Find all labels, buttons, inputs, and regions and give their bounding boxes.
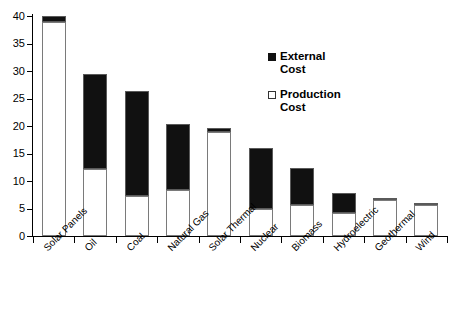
bar-solar-panels bbox=[42, 16, 66, 236]
bar-segment-external-cost bbox=[290, 168, 314, 205]
y-axis-tick-label: 25 bbox=[1, 93, 25, 104]
y-axis-tick-label: 20 bbox=[1, 121, 25, 132]
x-axis-tick bbox=[447, 237, 448, 243]
x-axis-tick bbox=[281, 237, 282, 243]
chart-legend: ExternalCost ProductionCost bbox=[268, 50, 378, 126]
x-axis-tick bbox=[74, 237, 75, 243]
x-axis-tick bbox=[157, 237, 158, 243]
x-axis-label-oil: Oil bbox=[83, 237, 99, 253]
legend-label-production-cost: ProductionCost bbox=[280, 88, 341, 114]
y-axis-tick-label: 10 bbox=[1, 176, 25, 187]
bar-segment-external-cost bbox=[249, 148, 273, 209]
bar-segment-production-cost bbox=[83, 169, 107, 236]
y-axis-tick-label: 15 bbox=[1, 148, 25, 159]
x-axis-tick bbox=[364, 237, 365, 243]
bar-segment-external-cost bbox=[83, 74, 107, 170]
y-axis-tick-label: 30 bbox=[1, 66, 25, 77]
bar-segment-external-cost bbox=[42, 16, 66, 22]
x-axis-tick bbox=[33, 237, 34, 243]
plot-area bbox=[33, 16, 447, 236]
bar-segment-external-cost bbox=[166, 124, 190, 190]
y-axis-tick-label: 5 bbox=[1, 203, 25, 214]
x-axis-tick bbox=[199, 237, 200, 243]
bar-segment-production-cost bbox=[125, 196, 149, 236]
y-axis-tick-label: 0 bbox=[1, 231, 25, 242]
bar-segment-production-cost bbox=[42, 22, 66, 237]
y-axis-tick-label: 35 bbox=[1, 38, 25, 49]
bar-natural-gas bbox=[166, 124, 190, 236]
x-axis-tick bbox=[323, 237, 324, 243]
legend-label-external-cost: ExternalCost bbox=[280, 50, 325, 76]
legend-item-production-cost: ProductionCost bbox=[268, 88, 378, 114]
filled-square-icon bbox=[268, 53, 276, 61]
bar-segment-external-cost bbox=[207, 128, 231, 132]
x-axis-tick bbox=[240, 237, 241, 243]
bar-segment-production-cost bbox=[207, 132, 231, 237]
open-square-icon bbox=[268, 91, 276, 99]
bar-segment-external-cost bbox=[332, 193, 356, 213]
x-axis-tick bbox=[406, 237, 407, 243]
bar-segment-external-cost bbox=[125, 91, 149, 196]
bar-segment-external-cost bbox=[414, 203, 438, 205]
bar-chart: 0510152025303540 Solar PanelsOilCoalNatu… bbox=[0, 0, 466, 311]
bar-coal bbox=[125, 91, 149, 236]
bar-segment-external-cost bbox=[373, 198, 397, 200]
y-axis-tick-label: 40 bbox=[1, 11, 25, 22]
x-axis-tick bbox=[116, 237, 117, 243]
bar-solar-thermal bbox=[207, 128, 231, 236]
legend-item-external-cost: ExternalCost bbox=[268, 50, 378, 76]
